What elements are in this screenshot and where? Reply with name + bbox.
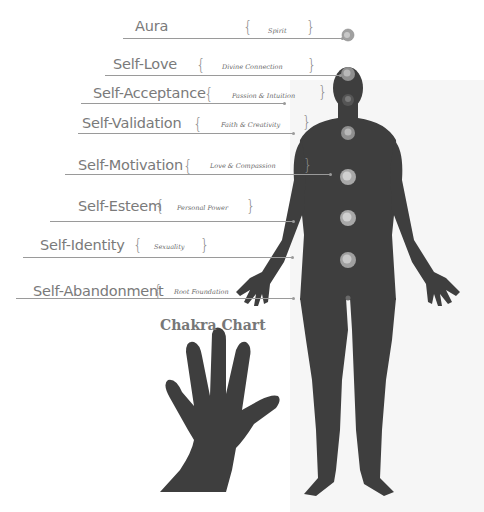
brace-close: }	[307, 58, 317, 73]
brace-open: {	[204, 87, 214, 102]
chakra-meaning-passion-intuition: Passion & Intuition	[232, 92, 295, 100]
pointer-line	[105, 75, 341, 76]
chakra-meaning-spirit: Spirit	[268, 27, 287, 35]
brace-close: }	[246, 199, 256, 214]
brace-close: }	[306, 20, 316, 35]
chakra-meaning-sexuality: Sexuality	[154, 243, 184, 251]
brace-open: {	[183, 159, 193, 174]
pointer-line	[65, 174, 331, 175]
brace-open: {	[133, 238, 143, 253]
pointer-line	[123, 38, 343, 39]
brace-open: {	[193, 117, 203, 132]
brace-close: }	[303, 158, 313, 173]
pointer-line	[81, 103, 285, 104]
chakra-meaning-love-compassion: Love & Compassion	[210, 162, 276, 170]
chakra-label-self-motivation: Self-Motivation	[78, 157, 183, 173]
pointer-line	[50, 221, 294, 222]
chakra-label-self-abandonment: Self-Abandonment	[33, 283, 164, 299]
chakra-meaning-divine-connection: Divine Connection	[222, 63, 283, 71]
chakra-label-self-validation: Self-Validation	[82, 115, 181, 131]
chakra-label-self-esteem: Self-Esteem	[78, 198, 162, 214]
pointer-line	[78, 133, 294, 134]
chakra-label-self-acceptance: Self-Acceptance	[93, 85, 206, 101]
human-silhouette-figure	[0, 0, 484, 512]
chakra-meaning-root-foundation: Root Foundation	[174, 288, 229, 296]
pointer-line	[23, 257, 293, 258]
chakra-label-self-identity: Self-Identity	[40, 237, 125, 253]
hand-silhouette	[160, 328, 280, 492]
chakra-meaning-personal-power: Personal Power	[177, 204, 228, 212]
chakra-label-self-love: Self-Love	[113, 56, 177, 72]
brace-open: {	[153, 284, 163, 299]
brace-open: {	[196, 58, 206, 73]
chakra-meaning-faith-creativity: Faith & Creativity	[221, 121, 280, 129]
brace-close: }	[302, 115, 312, 130]
pointer-line	[16, 298, 294, 299]
chart-title: Chakra Chart	[160, 317, 266, 333]
brace-close: }	[318, 85, 328, 100]
brace-open: {	[243, 20, 253, 35]
brace-open: {	[155, 199, 165, 214]
chakra-label-aura: Aura	[135, 18, 168, 34]
brace-close: }	[200, 238, 210, 253]
